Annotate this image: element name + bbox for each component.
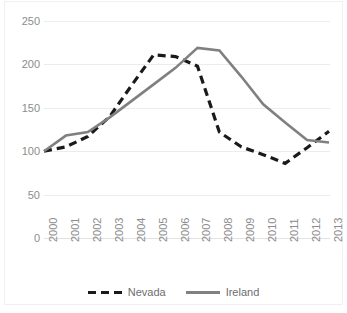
x-tick-label-2000: 2000 <box>37 241 51 283</box>
y-tick-label-100: 100 <box>6 146 40 157</box>
y-tick-label-150: 150 <box>6 102 40 113</box>
x-tick-text: 2001 <box>70 218 81 242</box>
x-tick-label-2007: 2007 <box>190 241 204 283</box>
dashed-line-swatch <box>88 291 122 294</box>
series-line-nevada <box>44 55 329 164</box>
plot-area <box>44 21 330 238</box>
legend-item-ireland[interactable]: Ireland <box>186 287 260 298</box>
x-tick-label-2010: 2010 <box>256 241 270 283</box>
x-tick-text: 2009 <box>245 218 256 242</box>
x-tick-text: 2006 <box>180 218 191 242</box>
y-tick-label-250: 250 <box>6 16 40 27</box>
x-tick-label-2011: 2011 <box>278 241 292 283</box>
x-tick-text: 2013 <box>333 218 344 242</box>
x-tick-text: 2011 <box>289 218 300 242</box>
legend-label: Ireland <box>226 287 260 298</box>
x-tick-label-2013: 2013 <box>322 241 336 283</box>
x-tick-label-2008: 2008 <box>212 241 226 283</box>
x-tick-label-2012: 2012 <box>300 241 314 283</box>
x-tick-text: 2012 <box>311 218 322 242</box>
x-tick-text: 2003 <box>114 218 125 242</box>
y-tick-label-50: 50 <box>6 189 40 200</box>
x-tick-text: 2000 <box>48 218 59 242</box>
x-tick-label-2003: 2003 <box>103 241 117 283</box>
x-tick-label-2006: 2006 <box>169 241 183 283</box>
x-tick-label-2002: 2002 <box>81 241 95 283</box>
x-tick-text: 2002 <box>92 218 103 242</box>
solid-line-swatch <box>186 291 220 294</box>
x-tick-label-2004: 2004 <box>125 241 139 283</box>
x-tick-text: 2008 <box>223 218 234 242</box>
y-axis: 050100150200250 <box>0 21 40 238</box>
x-axis: 2000200120022003200420052006200720082009… <box>44 241 330 283</box>
x-tick-text: 2005 <box>158 218 169 242</box>
x-tick-label-2001: 2001 <box>59 241 73 283</box>
x-tick-label-2009: 2009 <box>234 241 248 283</box>
x-tick-text: 2007 <box>201 218 212 242</box>
series-lines <box>44 21 330 238</box>
x-tick-text: 2010 <box>267 218 278 242</box>
x-tick-label-2005: 2005 <box>147 241 161 283</box>
x-tick-text: 2004 <box>136 218 147 242</box>
y-tick-label-0: 0 <box>6 233 40 244</box>
legend-label: Nevada <box>128 287 166 298</box>
chart-figure: 050100150200250 200020012002200320042005… <box>0 0 347 313</box>
chart-title <box>10 0 330 3</box>
y-tick-label-200: 200 <box>6 59 40 70</box>
legend-item-nevada[interactable]: Nevada <box>88 287 166 298</box>
chart-legend: NevadaIreland <box>0 287 347 298</box>
